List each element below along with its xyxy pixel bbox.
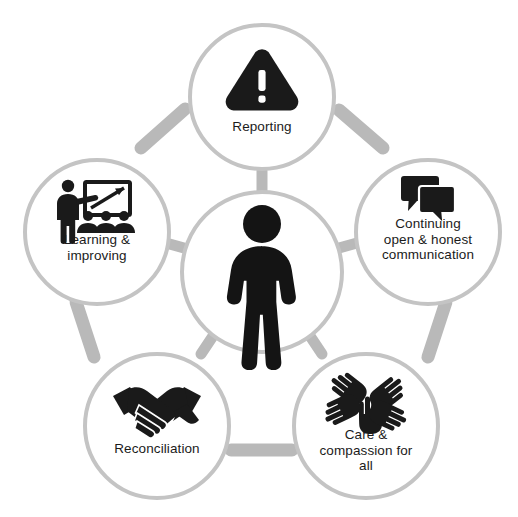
connector-learning-reporting xyxy=(141,109,185,148)
connector-reporting-communication xyxy=(339,110,383,148)
spoke-to-communication xyxy=(339,243,357,248)
spoke-to-care xyxy=(310,336,322,354)
connector-communication-care xyxy=(428,302,446,357)
connector-reconciliation-learning xyxy=(76,302,94,357)
spoke-to-reconciliation xyxy=(201,336,213,354)
duty-of-candour-diagram: Reporting Continuing open & honest commu… xyxy=(0,0,518,517)
diagram-canvas xyxy=(0,0,518,517)
